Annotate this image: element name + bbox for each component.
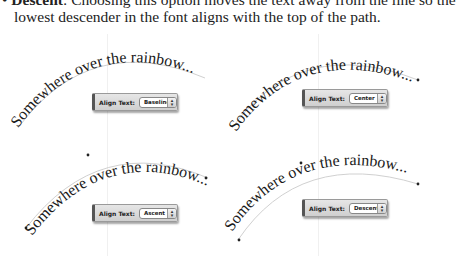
path-endpoint-icon [417, 183, 420, 186]
curve-text: Somewhere over the rainbow... [21, 158, 212, 238]
align-text-label: Align Text: [309, 95, 345, 102]
align-text-select[interactable]: Center ▴▾ [349, 93, 387, 104]
selected-value: Descent [354, 205, 379, 211]
curve-text: Somewhere over the rainbow... [221, 151, 411, 234]
example-descent: Somewhere over the rainbow... [221, 151, 420, 241]
selected-value: Ascent [144, 210, 165, 216]
example-baseline: Somewhere over the rainbow... [7, 48, 205, 130]
align-text-label: Align Text: [99, 99, 135, 106]
align-text-select[interactable]: Descent ▴▾ [349, 203, 387, 214]
curve-text: Somewhere over the rainbow... [7, 48, 198, 130]
up-down-arrows-icon[interactable]: ▴▾ [377, 94, 386, 103]
align-text-panel-ascent: Align Text: Ascent ▴▾ [92, 204, 178, 222]
align-text-panel-center: Align Text: Center ▴▾ [302, 89, 388, 107]
align-text-select[interactable]: Baseline ▴▾ [139, 97, 177, 108]
up-down-arrows-icon[interactable]: ▴▾ [167, 98, 176, 107]
align-text-label: Align Text: [99, 210, 135, 217]
up-down-arrows-icon[interactable]: ▴▾ [167, 209, 176, 218]
align-text-select[interactable]: Ascent ▴▾ [139, 208, 177, 219]
example-ascent: Somewhere over the rainbow... [21, 154, 212, 238]
align-text-label: Align Text: [309, 205, 345, 212]
align-text-panel-descent: Align Text: Descent ▴▾ [302, 199, 388, 217]
up-down-arrows-icon[interactable]: ▴▾ [377, 204, 386, 213]
path-anchor-icon [87, 154, 90, 157]
selected-value: Center [354, 95, 375, 101]
path-endpoint-icon [238, 239, 241, 242]
path-endpoint-icon [417, 79, 420, 82]
align-text-panel-baseline: Align Text: Baseline ▴▾ [92, 93, 178, 111]
